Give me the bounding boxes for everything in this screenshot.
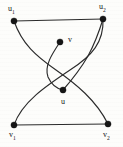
node-label-u: u <box>61 98 65 108</box>
edge-layer <box>14 19 108 125</box>
node-u <box>60 87 66 93</box>
node-layer <box>11 16 111 128</box>
edge-u1-u2 <box>14 19 103 21</box>
node-label-v1: v1 <box>9 131 16 141</box>
edge-v-u <box>47 42 63 90</box>
node-label-v2: v2 <box>103 131 110 141</box>
node-v2 <box>105 121 111 127</box>
node-u1 <box>11 18 17 24</box>
node-v <box>57 39 63 45</box>
node-u2 <box>100 16 106 22</box>
edge-u1-v2 <box>14 21 108 124</box>
node-label-u2: u2 <box>99 3 106 13</box>
graph-canvas <box>0 0 123 147</box>
graph-diagram: u1 u2 v u v1 v2 <box>0 0 123 147</box>
edge-v1-v2 <box>14 124 108 125</box>
node-v1 <box>11 122 17 128</box>
node-label-u1: u1 <box>8 5 15 15</box>
node-label-v: v <box>68 36 72 46</box>
